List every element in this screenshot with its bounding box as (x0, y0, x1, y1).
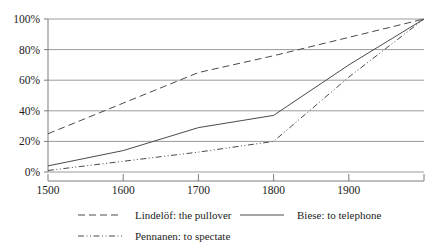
y-tick-label: 20% (19, 135, 41, 147)
x-tick-label: 1800 (262, 184, 285, 196)
x-tick-label: 1600 (112, 184, 135, 196)
legend-label: Lindelöf: the pullover (135, 209, 232, 221)
y-tick-label: 0% (25, 166, 41, 178)
legend-label: Pennanen: to spectate (135, 230, 230, 242)
x-tick-label: 1700 (187, 184, 210, 196)
legend-label: Biese: to telephone (297, 209, 381, 221)
y-tick-label: 40% (19, 105, 41, 117)
y-tick-label: 60% (19, 74, 41, 86)
chart-canvas: 0%20%40%60%80%100% 15001600170018001900 … (0, 0, 440, 252)
y-tick-label: 100% (13, 13, 40, 25)
x-tick-label: 1500 (37, 184, 60, 196)
y-tick-label: 80% (19, 44, 41, 56)
line-chart: 0%20%40%60%80%100% 15001600170018001900 … (0, 0, 440, 252)
x-tick-label: 1900 (337, 184, 360, 196)
